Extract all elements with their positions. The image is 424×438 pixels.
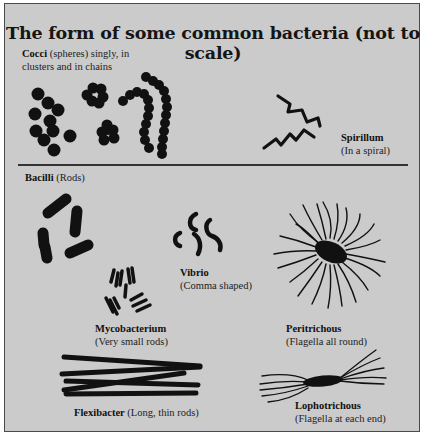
spirillum-illustration [264, 96, 320, 148]
mycobacterium-illustration [106, 268, 150, 314]
cocci-single-illustration [29, 88, 77, 157]
lophotrichous-illustration [260, 350, 386, 402]
cocci-cluster-illustration [82, 83, 120, 146]
flexibacter-illustration [62, 357, 200, 394]
vibrio-illustration [175, 214, 220, 254]
bacilli-illustration [43, 199, 88, 258]
peritrichous-illustration [274, 202, 385, 308]
bacteria-illustrations [0, 0, 424, 438]
cocci-chain-illustration [118, 72, 172, 159]
